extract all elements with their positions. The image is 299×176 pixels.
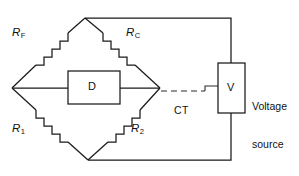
label-resistor-rc: RC bbox=[126, 26, 140, 39]
label-rf-subscript: F bbox=[21, 31, 26, 40]
label-r2-subscript: 2 bbox=[140, 127, 144, 136]
ct-dashed-connection bbox=[161, 86, 218, 91]
ct-step-to-voltmeter bbox=[205, 86, 218, 91]
label-ct: CT bbox=[174, 105, 189, 117]
label-r1-symbol: R bbox=[12, 122, 20, 134]
label-r2-symbol: R bbox=[131, 122, 139, 134]
resistor-r1-zigzag bbox=[36, 110, 68, 142]
wire-lower-right-upper bbox=[140, 88, 160, 110]
wire-upper-left-lower bbox=[12, 65, 36, 88]
wire-lower-left-lower bbox=[68, 142, 88, 160]
label-voltmeter: V bbox=[227, 81, 234, 93]
label-detector: D bbox=[88, 80, 96, 92]
label-resistor-r1: R1 bbox=[12, 122, 25, 135]
wire-upper-right-upper bbox=[85, 18, 103, 33]
label-voltage-source-line2: source bbox=[252, 138, 287, 151]
wire-lower-right-lower bbox=[88, 142, 108, 160]
label-r1-subscript: 1 bbox=[21, 127, 25, 136]
label-rc-symbol: R bbox=[126, 26, 134, 38]
wire-upper-right-lower bbox=[135, 65, 160, 88]
label-resistor-r2: R2 bbox=[131, 122, 144, 135]
label-resistor-rf: RF bbox=[12, 26, 25, 39]
wire-lower-left-upper bbox=[12, 88, 36, 110]
label-rc-subscript: C bbox=[135, 31, 141, 40]
label-rf-symbol: R bbox=[12, 26, 20, 38]
circuit-diagram: RF RC R1 R2 D V CT Voltage source bbox=[0, 0, 299, 176]
label-voltage-source-line1: Voltage bbox=[252, 100, 287, 113]
wire-upper-left-upper bbox=[68, 18, 85, 33]
detector-branch bbox=[12, 71, 160, 104]
label-voltage-source: Voltage source bbox=[252, 74, 287, 176]
resistor-rf-zigzag bbox=[36, 33, 68, 65]
wire-bottom-to-source bbox=[88, 113, 231, 160]
